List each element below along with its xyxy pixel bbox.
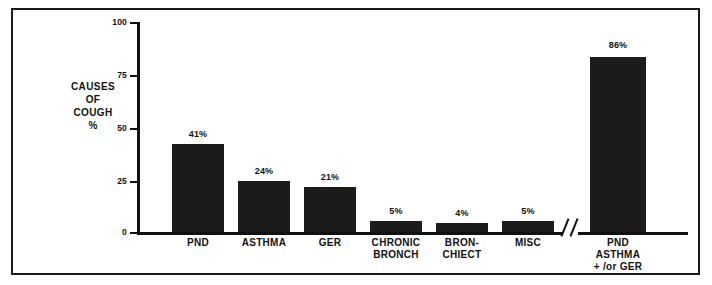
y-tick-label-0: 0 [101,227,127,237]
category-label-pnd-line-1: PND [163,237,233,249]
y-tick-0 [130,232,138,234]
category-label-ger: GER [295,237,365,249]
category-label-misc: MISC [493,237,563,249]
category-label-misc-line-1: MISC [493,237,563,249]
category-label-bronchiectasis-line-2: CHIECT [423,249,501,261]
y-axis-title-line-3: COUGH [47,106,139,119]
category-label-pnd: PND [163,237,233,249]
y-tick-label-50: 50 [101,123,127,133]
bar-value-bronchiectasis: 4% [436,208,488,218]
category-label-pnd-asthma-or-ger-line-2: ASTHMA [578,249,658,261]
y-axis-title-line-2: OF [47,93,139,106]
y-tick-75 [130,75,138,77]
y-tick-50 [130,128,138,130]
plot-area: CAUSES OF COUGH % 100 75 50 25 0 41% PND [0,0,712,285]
bar-asthma [238,181,290,232]
category-label-bronchiectasis: BRON- CHIECT [423,237,501,261]
bar-pnd-asthma-or-ger [590,57,646,232]
bar-value-pnd-asthma-or-ger: 86% [590,40,646,50]
category-label-pnd-asthma-or-ger: PND ASTHMA + /or GER [578,237,658,273]
bar-value-chronic-bronch: 5% [370,206,422,216]
bar-pnd [172,144,224,232]
x-axis-line-right [578,232,688,235]
bar-bronchiectasis [436,223,488,232]
category-label-pnd-asthma-or-ger-line-1: PND [578,237,658,249]
category-label-asthma: ASTHMA [229,237,299,249]
bar-misc [502,221,554,232]
y-tick-label-75: 75 [101,70,127,80]
x-axis-line-left [137,232,562,235]
bar-chronic-bronch [370,221,422,232]
bar-value-misc: 5% [502,206,554,216]
y-axis-title-line-1: CAUSES [47,80,139,93]
category-label-ger-line-1: GER [295,237,365,249]
y-tick-25 [130,181,138,183]
y-tick-label-100: 100 [101,17,127,27]
category-label-asthma-line-1: ASTHMA [229,237,299,249]
bar-value-ger: 21% [304,172,356,182]
axis-break-slash-2 [570,218,579,236]
axis-break-marker [560,218,584,238]
category-label-bronchiectasis-line-1: BRON- [423,237,501,249]
axis-break-slash-1 [561,218,570,236]
y-tick-label-25: 25 [101,176,127,186]
y-tick-100 [130,22,138,24]
bar-value-asthma: 24% [238,166,290,176]
figure: CAUSES OF COUGH % 100 75 50 25 0 41% PND [0,0,712,285]
bar-value-pnd: 41% [172,129,224,139]
category-label-pnd-asthma-or-ger-line-3: + /or GER [578,261,658,273]
bar-ger [304,187,356,232]
